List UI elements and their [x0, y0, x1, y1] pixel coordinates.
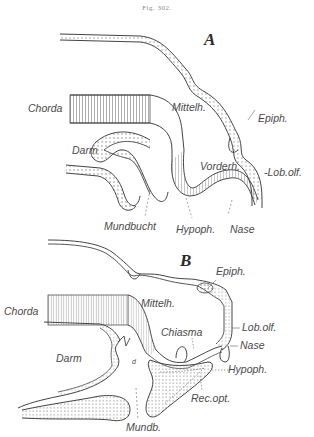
panel-b-label-chorda: Chorda	[4, 306, 38, 317]
panel-b-label-nase: Nase	[240, 340, 265, 351]
panel-b-label-mundb: Mundb.	[126, 422, 161, 433]
panel-b-label-hypoph: Hypoph.	[228, 364, 267, 375]
panel-b-label-epiph: Epiph.	[216, 266, 246, 277]
figure-302: Fig. 302.	[0, 0, 314, 437]
panel-b-label-d: d	[132, 358, 136, 365]
panel-b-label-rec-opt: Rec.opt.	[191, 393, 230, 404]
panel-b-label-mittelh: Mittelh.	[141, 298, 175, 309]
panel-b-label-lob-olf: Lob.olf.	[242, 322, 276, 333]
panel-b-letter: B	[180, 252, 191, 269]
panel-b-label-darm: Darm	[56, 353, 82, 364]
panel-b-label-chiasma: Chiasma	[161, 327, 202, 338]
